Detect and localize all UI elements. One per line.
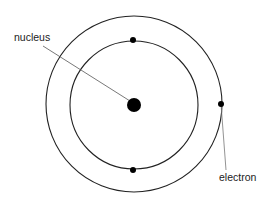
atom-diagram: nucleus electron (0, 0, 271, 200)
electron-inner-top (130, 37, 136, 43)
nucleus-label: nucleus (14, 31, 50, 43)
electron-outer-right (218, 101, 224, 107)
electron-label: electron (219, 171, 257, 183)
electron-inner-bottom (130, 167, 136, 173)
nucleus (127, 98, 141, 112)
